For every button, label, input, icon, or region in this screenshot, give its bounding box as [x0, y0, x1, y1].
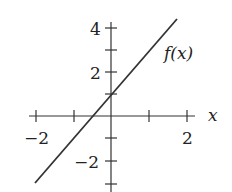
curve-label: f(x): [162, 43, 193, 63]
y-tick-label-4: 4: [90, 19, 101, 39]
x-tick-label-2: 2: [182, 128, 193, 148]
function-plot: 4 2 −2 −2 2 x f(x): [0, 0, 232, 192]
function-line: [35, 19, 177, 183]
y-tick-label-neg2: −2: [74, 152, 99, 172]
x-tick-label-neg2: −2: [24, 128, 49, 148]
y-tick-label-2: 2: [90, 63, 101, 83]
x-axis-label: x: [208, 105, 218, 125]
